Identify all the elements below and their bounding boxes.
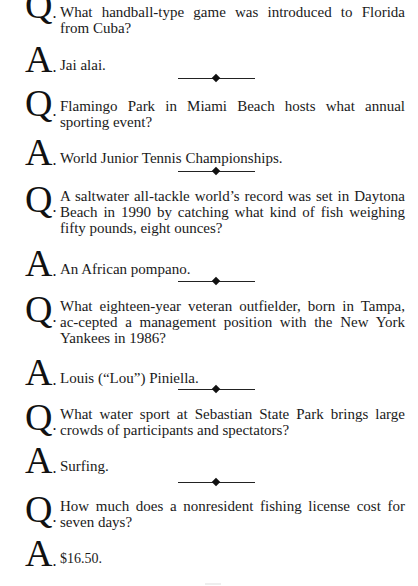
question-text: What water sport at Sebastian State Park… [60, 406, 405, 438]
answer-marker: A. [25, 534, 56, 580]
diamond-icon [212, 277, 220, 285]
diamond-icon [212, 167, 220, 175]
question-marker: Q. [25, 180, 56, 226]
separator-diamond-icon [178, 74, 255, 84]
question-marker: Q. [25, 84, 56, 130]
question-marker: Q. [25, 490, 56, 536]
answer-text: An African pompano. [60, 261, 405, 277]
separator-diamond-icon [178, 385, 255, 395]
question-text: A saltwater all-tackle world’s record wa… [60, 188, 405, 237]
answer-text: Louis (“Lou”) Piniella. [60, 370, 405, 386]
question-text: How much does a nonresident fishing lice… [60, 498, 405, 530]
answer-text: Jai alai. [60, 57, 405, 73]
answer-marker: A. [25, 244, 56, 290]
page-edge-mark [205, 583, 221, 585]
answer-marker: A. [25, 133, 56, 179]
question-text: What handball-type game was introduced t… [60, 4, 405, 36]
answer-marker: A. [25, 40, 56, 86]
question-marker: Q. [25, 290, 56, 336]
answer-text: $16.50. [60, 551, 405, 567]
question-marker: Q. [25, 0, 56, 32]
answer-marker: A. [25, 441, 56, 487]
question-marker: Q. [25, 398, 56, 444]
separator-diamond-icon [178, 478, 255, 488]
diamond-icon [212, 478, 220, 486]
answer-text: Surfing. [60, 458, 405, 474]
separator-diamond-icon [178, 167, 255, 177]
diamond-icon [212, 74, 220, 82]
question-text: Flamingo Park in Miami Beach hosts what … [60, 98, 405, 130]
diamond-icon [212, 385, 220, 393]
question-text: What eighteen-year veteran outfielder, b… [60, 298, 405, 347]
answer-marker: A. [25, 353, 56, 399]
separator-diamond-icon [178, 277, 255, 287]
trivia-page: Q. What handball-type game was introduce… [0, 0, 418, 586]
answer-text: World Junior Tennis Championships. [60, 150, 405, 166]
